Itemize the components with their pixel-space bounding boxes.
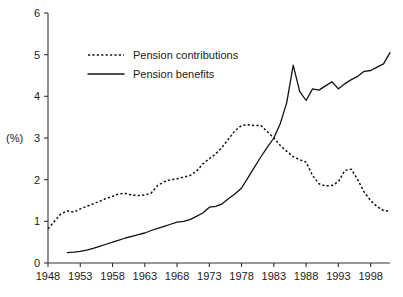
y-tick-label: 1 bbox=[34, 215, 40, 227]
series-line-pension-contributions bbox=[48, 125, 390, 229]
chart-canvas: 0123456 19481953195819631968197319781983… bbox=[0, 0, 403, 297]
legend-label-contributions: Pension contributions bbox=[133, 49, 239, 61]
x-tick-label: 1963 bbox=[133, 270, 157, 282]
x-tick-label: 1993 bbox=[326, 270, 350, 282]
y-tick-label: 4 bbox=[34, 90, 40, 102]
x-tick-label: 1988 bbox=[294, 270, 318, 282]
y-tick-label: 0 bbox=[34, 257, 40, 269]
data-series-group bbox=[48, 53, 390, 253]
y-tick-label: 3 bbox=[34, 132, 40, 144]
x-tick-label: 1998 bbox=[358, 270, 382, 282]
x-tick-label: 1953 bbox=[68, 270, 92, 282]
x-tick-label: 1978 bbox=[229, 270, 253, 282]
pension-line-chart: 0123456 19481953195819631968197319781983… bbox=[0, 0, 403, 297]
x-tick-label: 1968 bbox=[165, 270, 189, 282]
x-tick-label: 1958 bbox=[100, 270, 124, 282]
y-axis-title: (%) bbox=[6, 132, 23, 144]
y-axis: 0123456 bbox=[34, 7, 48, 269]
x-axis: 1948195319581963196819731978198319881993… bbox=[36, 263, 390, 282]
series-line-pension-benefits bbox=[67, 53, 390, 253]
x-tick-label: 1983 bbox=[262, 270, 286, 282]
legend-label-benefits: Pension benefits bbox=[133, 68, 215, 80]
y-tick-label: 2 bbox=[34, 174, 40, 186]
y-tick-label: 6 bbox=[34, 7, 40, 19]
chart-legend: Pension contributionsPension benefits bbox=[88, 49, 239, 80]
x-tick-label: 1948 bbox=[36, 270, 60, 282]
y-tick-label: 5 bbox=[34, 49, 40, 61]
x-tick-label: 1973 bbox=[197, 270, 221, 282]
